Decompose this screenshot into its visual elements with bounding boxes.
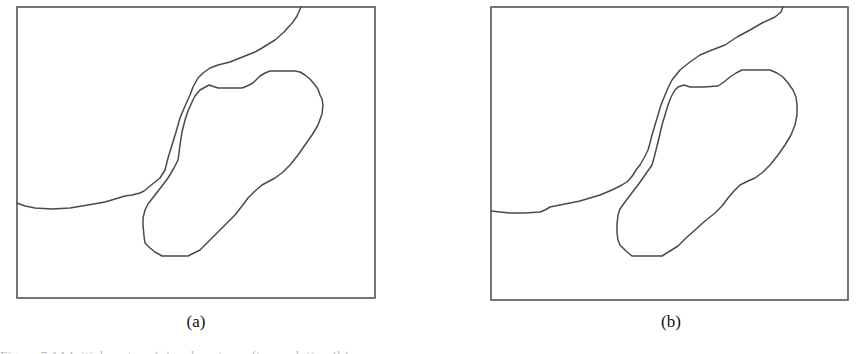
panel-a-frame: [17, 7, 375, 298]
panel-a-inner-region-contour: [143, 71, 323, 256]
panel-b-label: (b): [651, 312, 691, 332]
figure-canvas: [0, 0, 856, 354]
caption-text: Figure 7.14 Initial contour (a) and cont…: [0, 349, 856, 354]
figure-caption-partial: Figure 7.14 Initial contour (a) and cont…: [0, 349, 856, 354]
panel-b: [491, 7, 848, 300]
panel-b-outer-boundary-curve: [491, 7, 783, 213]
panel-b-inner-region-contour: [617, 70, 797, 256]
panel-a: [17, 7, 375, 298]
panel-a-outer-boundary-curve: [17, 7, 301, 209]
panel-a-label: (a): [176, 312, 216, 332]
panel-b-frame: [491, 7, 848, 300]
